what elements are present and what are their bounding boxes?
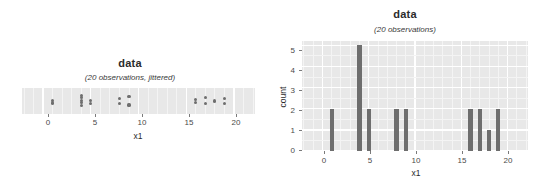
grid-line-minor-horizontal [302,140,528,141]
data-point [80,94,83,97]
histogram-title: data [320,8,490,20]
grid-line-minor-horizontal [302,55,528,56]
x-tick-label: 5 [85,118,105,127]
histogram-bar [496,109,500,151]
grid-line-major-horizontal [302,129,528,130]
data-point [89,102,92,105]
x-tick-mark [324,151,325,154]
y-tick-label: 1 [281,126,295,135]
histogram-bar [394,109,398,151]
grid-line-minor-vertical [129,88,130,114]
x-tick-mark [95,114,96,117]
histogram-bar [468,109,472,151]
grid-line-major-horizontal [302,150,528,151]
grid-line-minor-vertical [253,88,254,114]
grid-line-minor-vertical [100,88,101,114]
x-tick-label: 10 [406,156,426,165]
grid-line-major-vertical [322,41,323,151]
histogram-bar [404,109,408,151]
grid-line-minor-vertical [442,41,443,151]
data-point [213,99,216,102]
grid-line-minor-vertical [378,41,379,151]
x-tick-mark [189,114,190,117]
grid-line-major-vertical [138,88,139,114]
data-point [51,101,54,104]
grid-line-minor-vertical [526,41,527,151]
y-tick-label: 5 [281,46,295,55]
data-point [194,101,197,104]
grid-line-minor-vertical [205,88,206,114]
data-point [204,96,207,99]
x-tick-label: 15 [179,118,199,127]
grid-line-minor-vertical [452,41,453,151]
data-point [118,97,121,100]
histogram-x-axis-label: x1 [376,168,456,178]
histogram-bar [478,109,482,151]
grid-line-minor-vertical [243,88,244,114]
data-point [223,97,226,100]
histogram-subtitle: (20 observations) [320,25,490,34]
grid-line-minor-vertical [424,41,425,151]
histogram-bar [357,45,361,151]
grid-line-major-vertical [507,41,508,151]
strip-plot-x-axis-label: x1 [98,131,178,141]
grid-line-major-vertical [233,88,234,114]
grid-line-minor-vertical [33,88,34,114]
grid-line-minor-vertical [433,41,434,151]
figure-root: data (20 observations, jittered) 0 5 10 … [0,0,548,189]
x-tick-label: 20 [498,156,518,165]
histogram-bar [330,109,334,151]
strip-plot-panel [22,88,255,114]
histogram-bar [367,109,371,151]
grid-line-major-horizontal [302,45,528,46]
grid-line-major-horizontal [302,108,528,109]
y-tick-mark [299,110,302,111]
y-tick-mark [299,90,302,91]
grid-line-major-vertical [461,41,462,151]
grid-line-minor-vertical [109,88,110,114]
grid-line-major-vertical [414,41,415,151]
x-tick-mark [416,151,417,154]
grid-line-minor-vertical [71,88,72,114]
data-point [127,103,130,106]
histogram-bar [487,130,491,151]
grid-line-minor-horizontal [302,98,528,99]
grid-line-minor-vertical [303,41,304,151]
grid-line-minor-vertical [516,41,517,151]
x-tick-label: 5 [360,156,380,165]
grid-line-minor-vertical [176,88,177,114]
y-tick-label: 0 [281,146,295,155]
strip-plot-subtitle: (20 observations, jittered) [55,73,205,82]
x-tick-label: 20 [226,118,246,127]
grid-line-minor-vertical [62,88,63,114]
x-tick-mark [462,151,463,154]
grid-line-major-vertical [42,88,43,114]
y-tick-mark [299,130,302,131]
x-tick-label: 0 [38,118,58,127]
x-tick-label: 10 [132,118,152,127]
y-tick-mark [299,150,302,151]
y-tick-mark [299,50,302,51]
histogram-y-axis-label: count [278,67,288,127]
x-tick-mark [48,114,49,117]
grid-line-minor-vertical [157,88,158,114]
grid-line-minor-vertical [119,88,120,114]
strip-plot-title: data [55,57,205,69]
x-tick-mark [236,114,237,117]
data-point [204,102,207,105]
x-tick-label: 0 [314,156,334,165]
grid-line-major-horizontal [302,66,528,67]
grid-line-minor-horizontal [302,119,528,120]
data-point [118,102,121,105]
data-point [127,95,130,98]
x-tick-mark [370,151,371,154]
grid-line-minor-vertical [340,41,341,151]
grid-line-minor-vertical [24,88,25,114]
grid-line-minor-vertical [350,41,351,151]
grid-line-minor-vertical [313,41,314,151]
x-tick-mark [508,151,509,154]
grid-line-minor-vertical [387,41,388,151]
grid-line-major-horizontal [302,87,528,88]
grid-line-minor-horizontal [302,77,528,78]
data-point [80,104,83,107]
